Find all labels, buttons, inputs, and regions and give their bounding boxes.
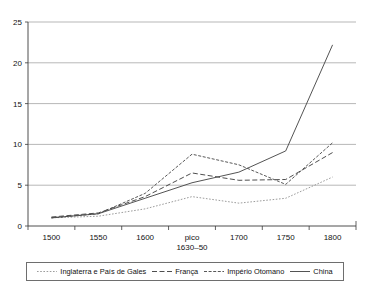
x-tick-label: 1700 xyxy=(230,233,248,242)
legend-swatch-icon xyxy=(290,268,310,275)
y-axis-ticks: 0510152025 xyxy=(13,18,28,231)
legend-swatch-icon xyxy=(204,268,224,275)
legend-item[interactable]: França xyxy=(152,267,198,276)
line-chart-svg: 0510152025 150015501600pico1630–50170017… xyxy=(0,0,374,252)
y-tick-label: 10 xyxy=(13,140,22,149)
legend-label: Inglaterra e País de Gales xyxy=(60,267,146,276)
legend-label: França xyxy=(175,267,198,276)
x-tick-label: 1600 xyxy=(136,233,154,242)
x-tick-label: 1500 xyxy=(43,233,61,242)
x-tick-label: 1550 xyxy=(89,233,107,242)
x-axis-ticks: 150015501600pico1630–50170017501800 xyxy=(28,226,356,252)
axis-lines xyxy=(28,22,356,226)
y-tick-label: 20 xyxy=(13,59,22,68)
legend-item[interactable]: Império Otomano xyxy=(204,267,284,276)
x-tick-sublabel: 1630–50 xyxy=(176,243,208,252)
y-tick-label: 25 xyxy=(13,18,22,27)
series-line-1 xyxy=(51,153,332,217)
series-line-2 xyxy=(51,143,332,218)
plot-area: 0510152025 150015501600pico1630–50170017… xyxy=(0,0,374,252)
series-line-3 xyxy=(51,45,332,218)
legend-swatch-icon xyxy=(37,268,57,275)
chart-legend: Inglaterra e País de GalesFrançaImpério … xyxy=(26,262,344,281)
legend-swatch-icon xyxy=(152,268,172,275)
legend-label: China xyxy=(313,267,332,276)
y-tick-label: 5 xyxy=(18,181,23,190)
series-lines xyxy=(51,45,332,218)
legend-label: Império Otomano xyxy=(227,267,284,276)
x-tick-label: 1750 xyxy=(277,233,295,242)
y-tick-label: 0 xyxy=(18,222,23,231)
legend-item[interactable]: Inglaterra e País de Gales xyxy=(37,267,146,276)
legend-item[interactable]: China xyxy=(290,267,332,276)
y-tick-label: 15 xyxy=(13,100,22,109)
x-tick-label: pico xyxy=(185,233,200,242)
x-tick-label: 1800 xyxy=(324,233,342,242)
chart-figure: 0510152025 150015501600pico1630–50170017… xyxy=(0,0,374,288)
